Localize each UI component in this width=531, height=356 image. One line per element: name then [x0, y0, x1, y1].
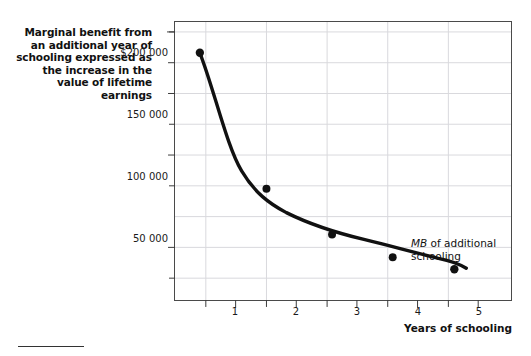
datapoint-1	[196, 49, 204, 57]
y-tick-label-50000: 50 000	[98, 233, 168, 244]
curve-label-emphasis: MB	[411, 237, 427, 249]
y-tick-label-200000: $200 000	[98, 47, 168, 58]
x-tick-label-4: 4	[403, 306, 433, 317]
chart-canvas: Marginal benefit from an additional year…	[0, 0, 531, 356]
y-tick-label-100000: 100 000	[98, 171, 168, 182]
x-axis-title: Years of schooling	[330, 322, 512, 334]
x-tick-label-5: 5	[464, 306, 494, 317]
datapoint-3	[328, 231, 336, 239]
y-axis-tick-label-group: $200 000 150 000 100 000 50 000	[96, 21, 168, 301]
footer-divider-rule	[18, 346, 84, 347]
x-axis-tick-label-group: 1 2 3 4 5	[174, 306, 512, 322]
datapoint-4	[389, 253, 397, 261]
datapoint-5	[450, 265, 458, 273]
x-tick-label-1: 1	[220, 306, 250, 317]
x-tick-label-2: 2	[281, 306, 311, 317]
y-tick-label-150000: 150 000	[98, 109, 168, 120]
y-axis-ticks	[168, 32, 175, 278]
curve-label-annotation: MB of additional schooling	[411, 237, 523, 263]
x-tick-label-3: 3	[342, 306, 372, 317]
datapoint-2	[262, 185, 270, 193]
